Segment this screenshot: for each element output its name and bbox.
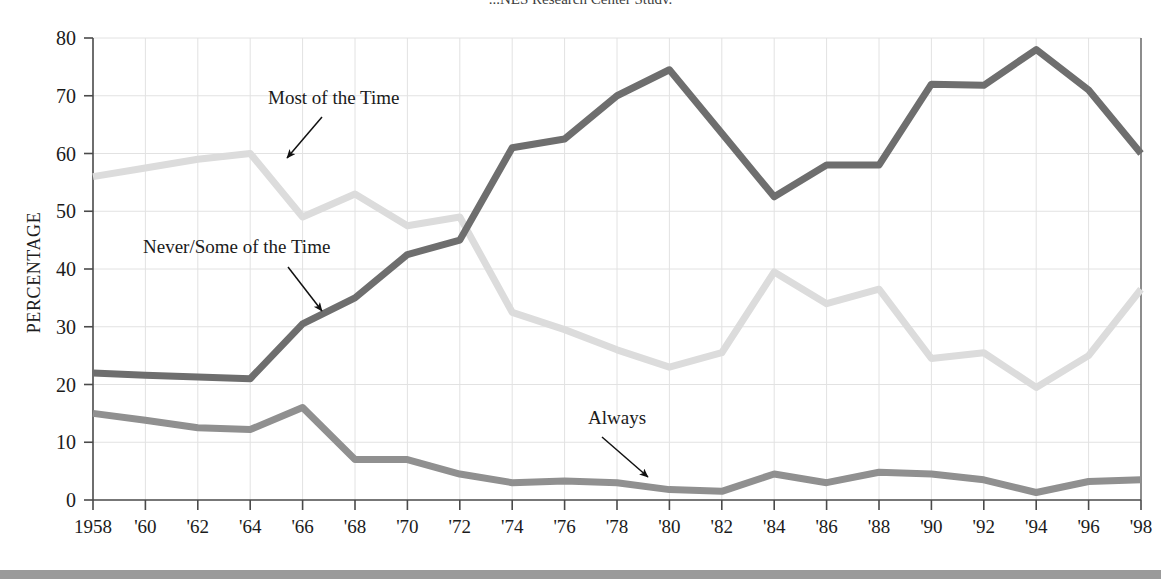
y-axis-title: PERCENTAGE: [24, 173, 45, 373]
x-tick-label: '68: [344, 516, 366, 537]
x-tick-label: '72: [449, 516, 471, 537]
y-tick-label: 0: [66, 489, 76, 511]
x-tick-label: '90: [920, 516, 942, 537]
y-tick-label: 80: [56, 27, 76, 49]
series-annotations: Most of the TimeNever/Some of the TimeAl…: [143, 87, 648, 477]
x-tick-label: '60: [134, 516, 156, 537]
x-tick-label: '94: [1025, 516, 1048, 537]
y-axis-tick-labels: 01020304050607080: [56, 27, 76, 511]
x-tick-label: '98: [1130, 516, 1152, 537]
chart-plot-area: 01020304050607080 1958'60'62'64'66'68'70…: [0, 0, 1161, 548]
x-tick-label: '66: [291, 516, 313, 537]
x-tick-label: '64: [239, 516, 262, 537]
y-tick-label: 70: [56, 85, 76, 107]
chart-page: ...NES Research Center Study. 0102030405…: [0, 0, 1161, 588]
y-tick-label: 10: [56, 431, 76, 453]
x-tick-label: '82: [711, 516, 733, 537]
annotation-arrow-most-of-the-time: [287, 117, 322, 158]
x-tick-label: '88: [868, 516, 890, 537]
footer-divider-rule: [0, 570, 1161, 579]
y-tick-label: 60: [56, 143, 76, 165]
y-tick-label: 20: [56, 374, 76, 396]
x-tick-label: '84: [763, 516, 786, 537]
x-axis-ticks: [93, 500, 1141, 510]
x-tick-label: '80: [658, 516, 680, 537]
y-tick-label: 30: [56, 316, 76, 338]
x-tick-label: '92: [973, 516, 995, 537]
y-axis-ticks: [84, 38, 93, 500]
annotation-label-most-of-the-time: Most of the Time: [268, 87, 399, 108]
x-tick-label: 1958: [74, 516, 112, 537]
x-tick-label: '76: [553, 516, 575, 537]
annotation-label-always: Always: [588, 407, 646, 428]
x-tick-label: '74: [501, 516, 524, 537]
y-tick-label: 50: [56, 200, 76, 222]
line-chart-svg: 01020304050607080 1958'60'62'64'66'68'70…: [0, 0, 1161, 548]
annotation-label-never-some-of-the-time: Never/Some of the Time: [143, 236, 330, 257]
x-tick-label: '62: [187, 516, 209, 537]
annotation-arrow-never-some-of-the-time: [288, 267, 322, 311]
x-tick-label: '86: [815, 516, 837, 537]
y-tick-label: 40: [56, 258, 76, 280]
x-tick-label: '78: [606, 516, 628, 537]
annotation-arrow-always: [602, 437, 648, 477]
x-tick-label: '70: [396, 516, 418, 537]
x-axis-tick-labels: 1958'60'62'64'66'68'70'72'74'76'78'80'82…: [74, 516, 1152, 537]
x-tick-label: '96: [1077, 516, 1099, 537]
